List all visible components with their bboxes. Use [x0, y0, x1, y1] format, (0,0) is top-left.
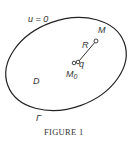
boundary-condition-label: u = 0 [28, 14, 48, 24]
domain-d-label: D [33, 76, 40, 86]
distance-r-label: R [82, 40, 89, 50]
figure-caption: FIGURE 1 [44, 127, 83, 137]
point-m0-marker [72, 61, 76, 65]
point-m-label: M [98, 25, 106, 35]
point-m0-label: M0 [66, 69, 78, 80]
boundary-gamma-label: Γ [36, 113, 42, 123]
domain-boundary-curve [0, 1, 133, 126]
point-q-label: q [79, 59, 84, 69]
figure-diagram: u = 0 M R q M0 D Γ FIGURE 1 [0, 0, 133, 143]
point-m-marker [94, 39, 98, 43]
